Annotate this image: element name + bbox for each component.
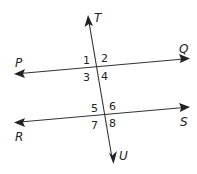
angle-1: 1	[83, 54, 90, 67]
angle-5: 5	[91, 102, 98, 115]
label-r: R	[15, 130, 23, 144]
label-q: Q	[179, 42, 188, 56]
label-p: P	[15, 56, 23, 70]
arrowhead-u-icon	[109, 151, 117, 164]
angle-8: 8	[109, 117, 116, 130]
transversal-tu	[85, 15, 118, 164]
label-t: T	[94, 11, 103, 25]
parallel-lines-diagram: T P Q R S U 1 2 3 4 5 6 7 8	[0, 0, 197, 174]
angle-6: 6	[109, 100, 116, 113]
arrowhead-r-icon	[14, 118, 25, 127]
angle-3: 3	[83, 71, 90, 84]
angle-4: 4	[101, 70, 108, 83]
label-s: S	[180, 115, 188, 129]
arrowhead-t-icon	[85, 15, 94, 27]
line-rs	[14, 103, 190, 127]
angle-2: 2	[101, 52, 108, 65]
angle-7: 7	[91, 119, 98, 132]
label-u: U	[119, 149, 128, 163]
